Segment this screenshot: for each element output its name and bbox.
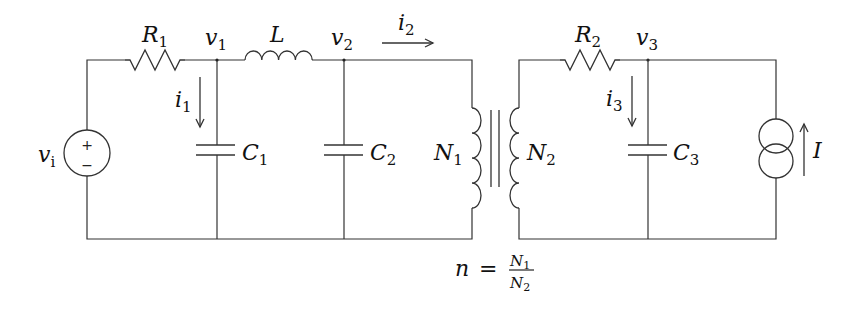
right-wires xyxy=(519,60,776,239)
label-n2: N2 xyxy=(526,140,556,169)
current-arrow-i-icon xyxy=(800,124,808,176)
svg-text:−: − xyxy=(81,157,93,173)
capacitor-c1-icon xyxy=(196,145,235,155)
label-c3: C3 xyxy=(673,140,699,169)
current-arrow-i1-icon xyxy=(196,77,204,127)
label-current-source: I xyxy=(812,138,823,163)
label-v2: v2 xyxy=(331,25,353,54)
label-i2: i2 xyxy=(398,10,415,39)
current-arrow-i2-icon xyxy=(382,39,433,47)
capacitor-c2-icon xyxy=(324,145,363,155)
label-c2: C2 xyxy=(370,140,396,169)
label-i1: i1 xyxy=(175,87,192,116)
voltage-source-icon: + − xyxy=(64,130,110,176)
svg-text:N1: N1 xyxy=(509,252,530,272)
inductor-l-icon xyxy=(245,51,312,60)
label-n1: N1 xyxy=(433,140,463,169)
svg-text:N2: N2 xyxy=(509,274,530,294)
circuit-diagram: + − vi R1 v1 L v2 i1 C1 C2 i2 xyxy=(0,0,865,310)
label-v3: v3 xyxy=(636,25,658,54)
current-arrow-i3-icon xyxy=(628,76,636,126)
node-dot-v2 xyxy=(342,58,345,61)
svg-text:=: = xyxy=(479,256,497,281)
transformer-icon xyxy=(472,108,519,208)
label-l: L xyxy=(269,22,285,47)
turns-ratio-equation: n = N1 N2 xyxy=(455,252,534,294)
resistor-r2-icon xyxy=(560,50,620,70)
resistor-r1-icon xyxy=(125,50,185,70)
svg-text:+: + xyxy=(81,137,93,153)
svg-text:n: n xyxy=(455,256,469,281)
label-i3: i3 xyxy=(606,86,623,115)
label-c1: C1 xyxy=(242,140,268,169)
label-v1: v1 xyxy=(205,25,227,54)
left-wires xyxy=(87,60,472,239)
node-dot-v1 xyxy=(215,58,218,61)
capacitor-c3-icon xyxy=(628,145,667,155)
current-source-icon xyxy=(759,119,793,178)
label-r2: R2 xyxy=(574,22,601,51)
label-vi: vi xyxy=(38,142,55,171)
label-r1: R1 xyxy=(141,22,168,51)
